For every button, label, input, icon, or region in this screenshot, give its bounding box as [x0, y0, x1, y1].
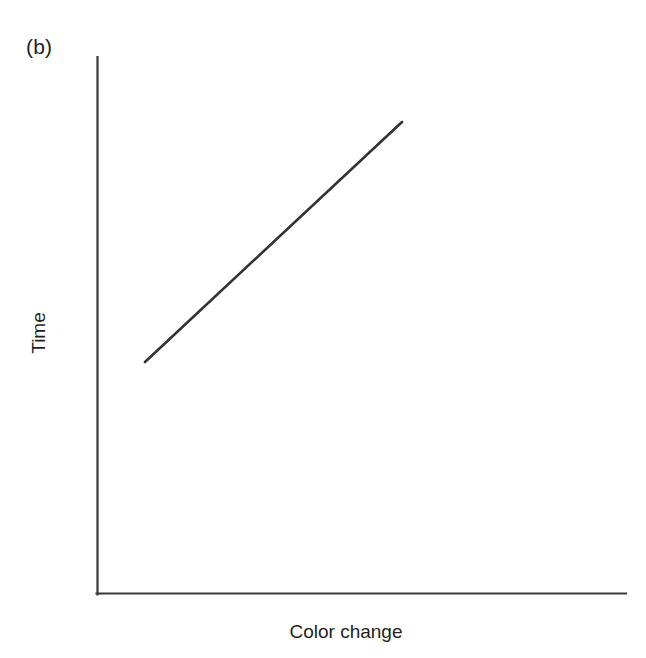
y-axis-label: Time — [29, 293, 48, 373]
figure-panel-b: (b) Time Color change — [0, 0, 646, 658]
data-series-line — [145, 122, 402, 362]
x-axis-label: Color change — [196, 622, 496, 641]
plot-area — [0, 0, 646, 658]
